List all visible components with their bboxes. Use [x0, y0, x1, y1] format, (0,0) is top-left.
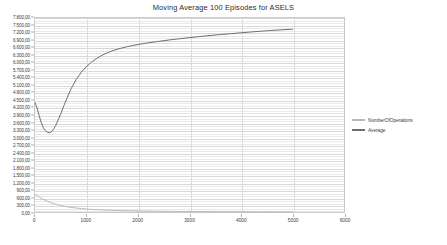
y-axis-tick-label: 5.700,00 [13, 67, 30, 72]
x-axis-tick-label: 4000 [236, 218, 247, 223]
y-axis-tick-label: 1.500,00 [13, 173, 30, 178]
y-axis-tick-label: 300,00 [17, 203, 30, 208]
series-line-numberofoperations [35, 195, 293, 212]
y-axis-tick-label: 7.500,00 [13, 22, 30, 27]
y-axis-tick-label: 7.200,00 [13, 30, 30, 35]
y-axis-tick-label: 4.500,00 [13, 97, 30, 102]
legend-item[interactable]: NumberOfOperations [352, 116, 444, 124]
x-axis-tick-mark [138, 214, 139, 217]
series-lines [35, 18, 344, 212]
y-axis-tick-label: 1.200,00 [13, 180, 30, 185]
y-axis-tick-label: 6.000,00 [13, 60, 30, 65]
chart-container: Moving Average 100 Episodes for ASELS 0,… [0, 0, 447, 245]
legend-item-label: Average [368, 128, 385, 133]
y-axis-tick-label: 4.800,00 [13, 90, 30, 95]
y-axis-tick-label: 6.300,00 [13, 52, 30, 57]
y-axis-tick-label: 3.300,00 [13, 128, 30, 133]
y-axis-tick-label: 1.800,00 [13, 165, 30, 170]
x-axis-tick-mark [293, 214, 294, 217]
y-axis-tick-label: 600,00 [17, 195, 30, 200]
y-axis-tick-label: 3.600,00 [13, 120, 30, 125]
series-line-average [35, 29, 293, 132]
plot-area [34, 17, 345, 213]
y-axis-tick-label: 3.000,00 [13, 135, 30, 140]
y-axis-tick-label: 6.900,00 [13, 37, 30, 42]
y-axis-tick-label: 900,00 [17, 188, 30, 193]
chart-title: Moving Average 100 Episodes for ASELS [0, 3, 447, 12]
x-axis-tick-mark [190, 214, 191, 217]
y-axis-tick-label: 6.600,00 [13, 45, 30, 50]
x-axis-tick-label: 6000 [340, 218, 351, 223]
y-axis: 0,00300,00600,00900,001.200,001.500,001.… [0, 17, 32, 213]
y-axis-tick-label: 5.400,00 [13, 75, 30, 80]
y-axis-tick-label: 2.700,00 [13, 143, 30, 148]
y-axis-tick-label: 7.800,00 [13, 15, 30, 20]
chart-legend: NumberOfOperationsAverage [352, 116, 444, 136]
y-axis-tick-label: 4.200,00 [13, 105, 30, 110]
x-axis-tick-label: 1000 [80, 218, 91, 223]
y-axis-tick-label: 3.900,00 [13, 113, 30, 118]
x-axis-tick-label: 0 [33, 218, 36, 223]
y-axis-tick-label: 2.100,00 [13, 158, 30, 163]
legend-item-label: NumberOfOperations [368, 118, 413, 123]
x-axis-tick-label: 2000 [132, 218, 143, 223]
x-axis-tick-mark [34, 214, 35, 217]
x-axis-tick-mark [241, 214, 242, 217]
y-axis-tick-label: 2.400,00 [13, 150, 30, 155]
x-axis-tick-mark [345, 214, 346, 217]
x-axis: 0100020003000400050006000 [34, 214, 345, 228]
legend-item[interactable]: Average [352, 126, 444, 134]
y-axis-tick-label: 5.100,00 [13, 82, 30, 87]
x-axis-tick-label: 3000 [184, 218, 195, 223]
legend-color-swatch [352, 129, 365, 131]
x-axis-tick-label: 5000 [288, 218, 299, 223]
y-axis-tick-label: 0,00 [21, 211, 30, 216]
legend-color-swatch [352, 119, 365, 121]
x-axis-tick-mark [86, 214, 87, 217]
